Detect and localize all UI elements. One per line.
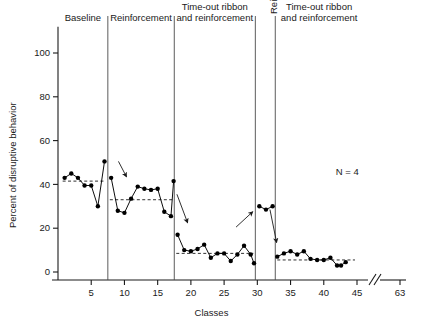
data-point-marker	[169, 214, 173, 218]
data-point-marker	[62, 176, 66, 180]
data-point-marker	[252, 261, 256, 265]
data-point-marker	[339, 263, 343, 267]
data-point-marker	[257, 204, 261, 208]
data-point-marker	[175, 233, 179, 237]
arrow-baseline-to-reinforcement-icon	[118, 161, 126, 176]
data-point-marker	[136, 184, 140, 188]
data-point-marker	[308, 257, 312, 261]
x-axis-tick-label: 63	[395, 287, 406, 298]
x-axis-tick-label: 45	[352, 287, 363, 298]
x-axis-tick-label: 25	[219, 287, 230, 298]
data-point-marker	[89, 183, 93, 187]
data-point-marker	[248, 252, 252, 256]
data-point-marker	[235, 252, 239, 256]
data-point-marker	[109, 176, 113, 180]
x-axis-tick-label: 5	[89, 287, 94, 298]
x-axis-tick-label: 10	[119, 287, 130, 298]
x-axis-tick-label: 15	[152, 287, 163, 298]
data-point-marker	[282, 251, 286, 255]
data-point-marker	[76, 176, 80, 180]
phase-label-line: and reinforcement	[235, 12, 403, 23]
data-point-marker	[215, 251, 219, 255]
data-point-marker	[189, 249, 193, 253]
sample-size: N = 4	[336, 167, 359, 177]
x-axis-tick-label: 40	[318, 287, 329, 298]
x-axis-label: Classes	[0, 308, 423, 318]
arrow-timeout-to-reinforcement-icon	[236, 212, 253, 227]
y-axis-tick-label: 0	[45, 266, 50, 277]
phase-label-line: Time-out ribbon	[235, 1, 403, 12]
data-point-marker	[275, 254, 279, 258]
data-point-marker	[270, 204, 274, 208]
data-point-marker	[116, 208, 120, 212]
data-point-marker	[322, 258, 326, 262]
y-axis-tick-label: 100	[34, 47, 50, 58]
chart-figure: 0204060801005101520253035404563 Percent …	[0, 0, 423, 324]
data-point-marker	[162, 210, 166, 214]
chart-svg: 0204060801005101520253035404563	[0, 0, 423, 324]
data-point-marker	[69, 171, 73, 175]
data-point-marker	[122, 211, 126, 215]
data-point-marker	[195, 247, 199, 251]
x-axis-tick-label: 20	[186, 287, 197, 298]
data-point-marker	[335, 263, 339, 267]
data-point-marker	[288, 249, 292, 253]
data-point-marker	[328, 256, 332, 260]
y-axis-tick-label: 20	[39, 222, 50, 233]
data-point-marker	[149, 188, 153, 192]
data-point-marker	[182, 248, 186, 252]
data-point-marker	[242, 244, 246, 248]
y-axis-tick-label: 60	[39, 135, 50, 146]
data-point-marker	[155, 187, 159, 191]
data-point-marker	[102, 159, 106, 163]
phase-label-timeout-ribbon-and-reinforcement-2: Time-out ribbonand reinforcement	[235, 1, 403, 23]
data-point-marker	[171, 179, 175, 183]
data-point-marker	[82, 183, 86, 187]
y-axis-tick-label: 40	[39, 179, 50, 190]
data-point-marker	[264, 207, 268, 211]
data-point-marker	[142, 187, 146, 191]
data-point-marker	[302, 249, 306, 253]
y-axis-tick-label: 80	[39, 91, 50, 102]
data-point-marker	[344, 260, 348, 264]
data-point-marker	[222, 251, 226, 255]
data-point-marker	[129, 196, 133, 200]
data-point-marker	[202, 242, 206, 246]
data-point-marker	[295, 252, 299, 256]
data-line-segment	[178, 235, 254, 263]
data-point-marker	[229, 259, 233, 263]
y-axis-label: Percent of disruptive behavior	[8, 102, 18, 228]
x-axis-tick-label: 30	[252, 287, 263, 298]
data-point-marker	[209, 256, 213, 260]
data-point-marker	[315, 258, 319, 262]
arrow-reinforcement-to-timeout-icon	[177, 194, 188, 222]
x-axis-tick-label: 35	[285, 287, 296, 298]
data-point-marker	[96, 204, 100, 208]
